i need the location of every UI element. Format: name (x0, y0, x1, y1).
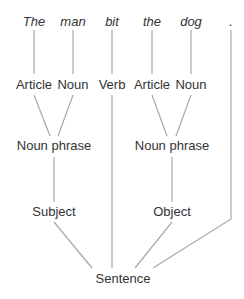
edge-p1-np1 (34, 95, 50, 136)
word-man: man (60, 14, 85, 29)
edge-r1-s (54, 222, 92, 268)
root-sentence: Sentence (96, 271, 151, 286)
word-period: . (229, 14, 233, 29)
pos-noun-1: Noun (57, 77, 88, 92)
pos-article-1: Article (16, 77, 52, 92)
role-subject: Subject (32, 204, 75, 219)
noun-phrase-2: Noun phrase (135, 138, 209, 153)
pos-verb: Verb (99, 77, 126, 92)
role-object: Object (153, 204, 191, 219)
edge-p2-np1 (58, 95, 73, 136)
word-dog: dog (180, 14, 202, 29)
noun-phrase-1: Noun phrase (17, 138, 91, 153)
edge-r2-s (135, 222, 172, 268)
edge-p5-np2 (176, 95, 191, 136)
word-bit: bit (105, 14, 119, 29)
edge-p4-np2 (152, 95, 167, 136)
pos-noun-2: Noun (175, 77, 206, 92)
word-the: The (23, 14, 45, 29)
word-the-2: the (143, 14, 161, 29)
pos-article-2: Article (134, 77, 170, 92)
